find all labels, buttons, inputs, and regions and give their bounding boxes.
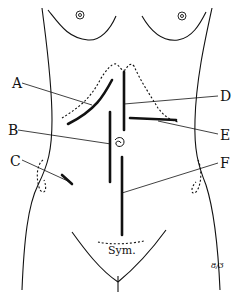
artist-signature: 8/3	[211, 261, 224, 270]
left-iliac-crest	[37, 160, 45, 192]
label-a: A	[11, 75, 23, 91]
label-f: F	[220, 155, 230, 171]
left-body-contour	[22, 8, 52, 290]
navel	[115, 138, 124, 147]
label-d: D	[220, 88, 231, 104]
nipples	[76, 11, 186, 20]
right-breast-contour	[142, 12, 206, 40]
leader-a	[22, 83, 92, 105]
incision-a	[68, 80, 112, 124]
leader-e	[158, 121, 218, 134]
incision-c	[62, 175, 72, 184]
right-nipple	[178, 12, 186, 20]
leader-c	[22, 160, 70, 182]
label-b: B	[8, 122, 18, 138]
costal-margin	[62, 64, 178, 122]
torso-diagram: A B C D E F Sym. 8/3	[0, 0, 240, 293]
left-nipple	[76, 11, 84, 19]
left-breast-contour	[48, 10, 116, 40]
left-inguinal-line	[72, 232, 118, 282]
label-c: C	[10, 153, 21, 169]
right-iliac-crest	[192, 160, 201, 193]
symphysis-label: Sym.	[108, 244, 136, 257]
leader-b	[18, 130, 111, 144]
incisions	[62, 72, 176, 235]
leader-d	[124, 96, 218, 104]
right-body-contour	[195, 8, 220, 290]
diagram-canvas: A B C D E F Sym. 8/3	[0, 0, 240, 293]
label-e: E	[220, 127, 230, 143]
